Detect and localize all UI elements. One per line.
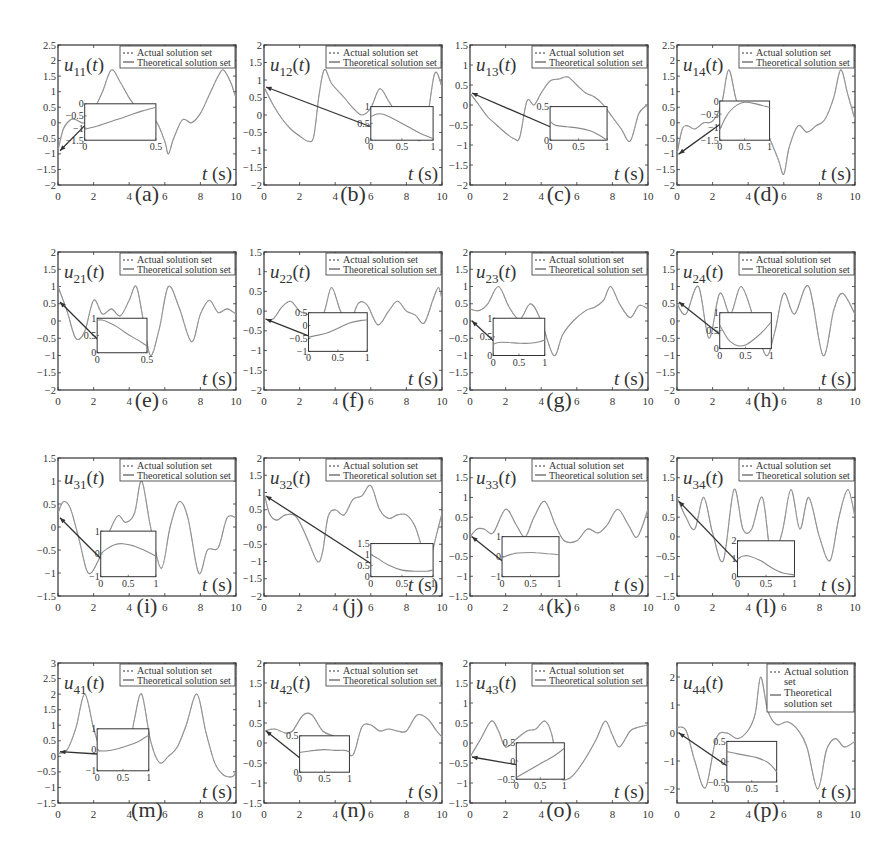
- inset-x-tick: 0: [724, 783, 729, 794]
- inset-x-tick: 1: [774, 783, 779, 794]
- legend-theoretical: Theoretical: [784, 687, 832, 698]
- subplot-caption: (p): [736, 797, 796, 823]
- svg-text:set: set: [784, 676, 796, 687]
- x-tick-label: 0: [674, 808, 680, 820]
- figure-grid: −2−1.5−1−0.500.511.522.50246810u11(t)Act…: [0, 0, 893, 844]
- x-axis-label: t (s): [821, 781, 851, 803]
- svg-text:solution set: solution set: [784, 698, 832, 709]
- x-tick-label: 8: [817, 808, 823, 820]
- inset-y-tick: −0.5: [708, 777, 726, 788]
- y-tick-label: 2: [670, 672, 675, 683]
- inset-frame: [727, 741, 777, 782]
- inset-y-tick: 0.5: [713, 736, 726, 747]
- x-tick-label: 10: [850, 808, 862, 820]
- x-tick-label: 2: [710, 808, 716, 820]
- inset-y-tick: 0: [721, 756, 726, 767]
- y-tick-label: −2: [664, 784, 675, 795]
- y-tick-label: −1: [664, 756, 675, 767]
- inset-x-tick: 0.5: [746, 783, 759, 794]
- y-tick-label: 1: [670, 700, 675, 711]
- y-tick-label: 0: [670, 728, 675, 739]
- plot-p: −2−10120246810u44(t)Actual solutionsetTh…: [0, 0, 893, 844]
